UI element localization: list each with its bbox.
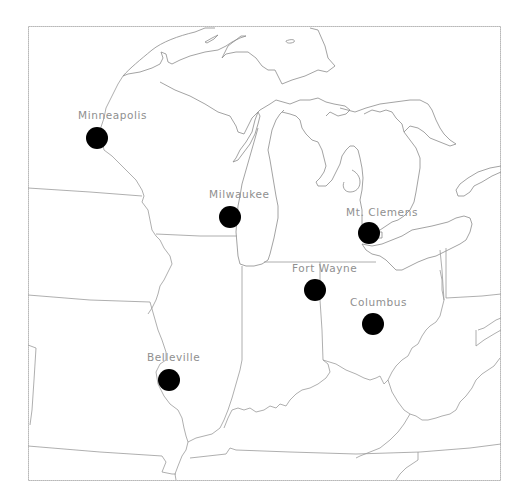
saginaw-bay-shore [343, 170, 360, 192]
city-label: Mt. Clemens [346, 206, 418, 218]
city-label: Fort Wayne [292, 262, 357, 274]
city-marker-dot[interactable] [158, 369, 180, 391]
west-virginia-maryland-border [476, 318, 501, 346]
map-canvas: Minneapolis Milwaukee Mt. Clemens Fort W… [0, 0, 528, 502]
minnesota-iowa-border [28, 188, 142, 196]
city-belleville[interactable]: Belleville [147, 351, 200, 391]
city-milwaukee[interactable]: Milwaukee [209, 188, 270, 228]
lake-superior-island-east [286, 40, 294, 43]
city-marker-dot[interactable] [86, 127, 108, 149]
lake-erie-shore [362, 216, 472, 270]
iowa-illinois-border [148, 240, 172, 314]
wisconsin-illinois-border [156, 234, 237, 236]
minnesota-wisconsin-border [100, 76, 160, 240]
city-label: Milwaukee [209, 188, 270, 200]
coastlines [123, 28, 501, 270]
city-minneapolis[interactable]: Minneapolis [78, 109, 147, 149]
kentucky-virginia-border [356, 414, 410, 458]
lake-superior-shore [123, 28, 335, 84]
city-marker-dot[interactable] [219, 206, 241, 228]
kentucky-tennessee-border [190, 444, 501, 458]
missouri-arkansas-border [28, 446, 176, 474]
city-columbus[interactable]: Columbus [350, 296, 407, 335]
indiana-ohio-border [320, 262, 323, 360]
city-marker-dot[interactable] [304, 279, 326, 301]
map-frame [29, 27, 501, 481]
city-label: Columbus [350, 296, 407, 308]
city-label: Minneapolis [78, 109, 147, 121]
lake-ontario-shore [456, 166, 501, 196]
city-markers: Minneapolis Milwaukee Mt. Clemens Fort W… [78, 109, 418, 391]
city-marker-dot[interactable] [362, 313, 384, 335]
lake-superior-island [205, 35, 218, 43]
kansas-missouri-border [28, 345, 36, 425]
pennsylvania-new-york-border [446, 248, 501, 298]
green-bay-shore [233, 112, 260, 162]
iowa-missouri-border [28, 295, 150, 302]
city-marker-dot[interactable] [358, 222, 380, 244]
city-fort-wayne[interactable]: Fort Wayne [292, 262, 357, 301]
kentucky-west-virginia-border [388, 358, 500, 420]
lower-michigan-west-shore [282, 112, 365, 240]
tennessee-north-carolina-border [396, 452, 418, 480]
city-label: Belleville [147, 351, 200, 363]
